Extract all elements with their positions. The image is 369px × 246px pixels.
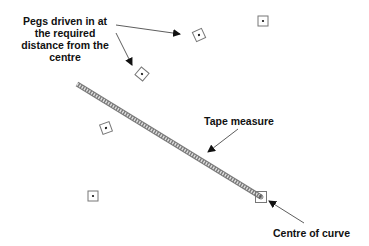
peg-5: [88, 191, 98, 201]
arrow-pegs-1: [116, 25, 180, 34]
arrow-centre: [269, 201, 304, 223]
tape-measure: [77, 84, 261, 197]
pegs-label-line-4: centre: [14, 51, 116, 63]
peg-2: [192, 28, 205, 41]
pegs-label-line-1: Pegs driven in at: [14, 15, 116, 27]
pegs-label-line-3: distance from the: [14, 39, 116, 51]
peg-3: [135, 67, 149, 81]
peg-4: [100, 122, 113, 135]
pegs-label-line-2: the required: [14, 27, 116, 39]
arrow-tape: [208, 129, 238, 152]
arrow-pegs-2: [116, 33, 132, 65]
tape-measure-label: Tape measure: [204, 115, 274, 127]
peg-1: [258, 16, 268, 26]
pegs-label: Pegs driven in at the required distance …: [14, 15, 116, 63]
centre-of-curve-label: Centre of curve: [273, 227, 350, 239]
